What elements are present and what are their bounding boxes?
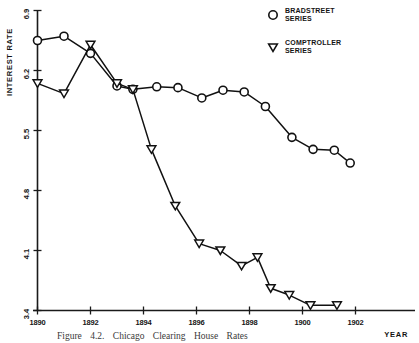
x-axis-title: YEAR [384, 330, 408, 339]
circle-marker-icon [346, 159, 354, 167]
circle-marker-icon [153, 83, 161, 91]
legend-label-bradstreet-line1: BRADSTREET [285, 7, 335, 14]
series-layer [33, 32, 354, 309]
triangle-down-marker-icon [266, 285, 275, 292]
circle-marker-icon [330, 146, 338, 154]
triangle-down-marker-icon [147, 146, 156, 153]
circle-marker-icon [288, 133, 296, 141]
series-line [38, 45, 337, 306]
legend: BRADSTREET SERIES COMPTROLLER SERIES [269, 7, 342, 54]
y-tick-labels: 6.9 6.2 5.5 4.8 4.1 3.4 [22, 9, 31, 319]
x-tick-labels: 1890 1892 1894 1896 1898 1900 1902 [30, 318, 364, 327]
circle-marker-icon [60, 32, 68, 40]
circle-marker-icon [174, 84, 182, 92]
triangle-down-marker-icon [171, 202, 180, 209]
circle-marker-icon [240, 88, 248, 96]
x-tick-label: 1890 [30, 318, 46, 327]
triangle-down-marker-icon [269, 44, 278, 52]
y-axis-title: INTEREST RATE [5, 28, 14, 96]
circle-marker-icon [219, 86, 227, 94]
circle-marker-icon [269, 11, 277, 19]
triangle-down-marker-icon [86, 41, 95, 48]
x-tick-label: 1896 [189, 318, 205, 327]
y-tick-label: 4.8 [22, 189, 31, 199]
figure-caption: Figure 4.2. Chicago Clearing House Rates [57, 331, 387, 343]
triangle-down-marker-icon [33, 80, 42, 87]
circle-marker-icon [261, 103, 269, 111]
legend-label-comptroller-line2: SERIES [285, 47, 312, 54]
y-tick-label: 5.5 [22, 129, 31, 139]
figure-caption-text: Figure 4.2. Chicago Clearing House Rates [57, 331, 387, 341]
legend-label-comptroller-line1: COMPTROLLER [285, 39, 341, 46]
circle-marker-icon [309, 145, 317, 153]
chart-canvas: 6.9 6.2 5.5 4.8 4.1 3.4 INTEREST RATE 18… [0, 0, 419, 343]
x-tick-label: 1900 [295, 318, 311, 327]
x-tick-label: 1902 [348, 318, 364, 327]
triangle-down-marker-icon [253, 254, 262, 261]
y-tick-label: 4.1 [22, 249, 31, 259]
circle-marker-icon [34, 37, 42, 45]
x-tick-label: 1892 [83, 318, 99, 327]
figure-container: 6.9 6.2 5.5 4.8 4.1 3.4 INTEREST RATE 18… [0, 0, 419, 343]
legend-label-bradstreet-line2: SERIES [285, 15, 312, 22]
circle-marker-icon [198, 94, 206, 102]
x-tick-label: 1898 [242, 318, 258, 327]
triangle-down-marker-icon [60, 90, 69, 97]
y-tick-label: 6.9 [22, 9, 31, 19]
triangle-down-marker-icon [285, 292, 294, 299]
series-comptroller [33, 41, 341, 309]
triangle-down-marker-icon [237, 262, 246, 269]
x-tick-label: 1894 [136, 318, 153, 327]
y-tick-label: 6.2 [22, 69, 31, 79]
